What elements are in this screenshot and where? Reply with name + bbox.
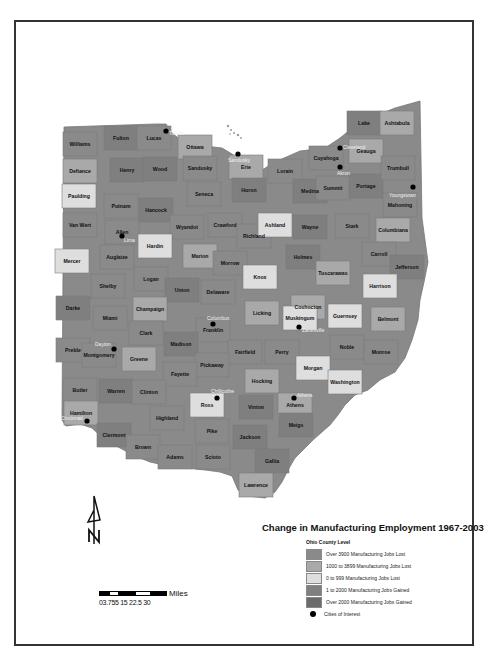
county-label: Medina [301, 188, 319, 194]
county-label: Licking [253, 310, 271, 316]
city-label: Cleveland [343, 144, 365, 150]
legend-item: 1000 to 3899 Manufacturing Jobs Lost [306, 560, 472, 572]
city-dot-icon [410, 184, 415, 189]
legend-swatch [306, 549, 322, 560]
county-label: Henry [120, 167, 135, 173]
north-arrow-icon [86, 494, 106, 546]
county-label: Meigs [289, 422, 304, 428]
scale-bar: Miles 03.755 15 22.5 30 [99, 589, 188, 606]
city-label: Lima [124, 237, 135, 243]
county-label: Champaign [136, 306, 164, 312]
county-label: Jackson [240, 434, 261, 440]
county-label: Lucas [147, 135, 162, 141]
county-label: Marion [191, 253, 208, 259]
city-label: Athens [297, 392, 313, 398]
county-label: Mercer [63, 258, 80, 264]
city-dot-icon [111, 346, 116, 351]
county-label: Preble [65, 347, 81, 353]
county-label: Brown [135, 444, 151, 450]
county-label: Paulding [68, 193, 90, 199]
county-label: Ross [201, 402, 214, 408]
county-label: Defiance [69, 168, 91, 174]
county-label: Clark [140, 330, 153, 336]
county-label: Jefferson [395, 264, 418, 270]
county-label: Scioto [205, 454, 221, 460]
legend-swatch [306, 573, 322, 584]
county-label: Richland [243, 233, 265, 239]
county-label: Hardin [147, 243, 163, 249]
city-label: Columbus [207, 315, 230, 321]
county-label: Guernsey [333, 313, 357, 319]
city-dot-icon [310, 611, 316, 617]
county-label: Belmont [378, 316, 399, 322]
county-label: Hancock [145, 207, 167, 213]
city-dot-icon [214, 395, 219, 400]
scale-units: Miles [169, 589, 188, 598]
legend-swatch [306, 597, 322, 608]
county-label: Huron [241, 187, 256, 193]
county-label: Morgan [304, 365, 323, 371]
county-label: Warren [107, 388, 125, 394]
county-label: Clinton [140, 389, 158, 395]
county-label: Delaware [207, 289, 230, 295]
city-dot-icon [84, 418, 89, 423]
county-label: Madison [170, 341, 191, 347]
legend-swatch [306, 561, 322, 572]
city-dot-icon [235, 151, 240, 156]
legend-item: 0 to 999 Manufacturing Jobs Lost [306, 572, 472, 584]
county-label: Mahoning [388, 202, 413, 208]
county-label: Montgomery [83, 352, 114, 358]
county-label: Noble [340, 344, 355, 350]
county-label: Highland [156, 415, 178, 421]
county-label: Sandusky [188, 165, 213, 171]
city-dot-icon [337, 145, 342, 150]
county-label: Washington [330, 379, 360, 385]
county-label: Union [175, 287, 190, 293]
county-label: Stark [346, 223, 359, 229]
county-label: Tuscarawas [318, 270, 347, 276]
county-label: Miami [103, 315, 118, 321]
county-label: Putnam [111, 203, 130, 209]
city-dot-icon [210, 321, 215, 326]
county-label: Athens [286, 402, 304, 408]
city-label: Akron [337, 170, 350, 176]
legend-swatch [306, 585, 322, 596]
legend-label: Cities of Interest [324, 611, 360, 617]
lake-erie-islands [227, 125, 242, 139]
county-label: Van Wert [69, 222, 91, 228]
county-label: Knox [254, 274, 267, 280]
county-label: Williams [70, 141, 91, 147]
county-label: Pike [207, 428, 218, 434]
legend-label: 0 to 999 Manufacturing Jobs Lost [326, 575, 400, 581]
county-label: Wood [153, 166, 167, 172]
county-label: Crawford [214, 222, 237, 228]
county-label: Coshocton [294, 304, 321, 310]
county-label: Portage [356, 183, 375, 189]
county-label: Auglaize [106, 254, 127, 260]
county-label: Clermont [103, 432, 126, 438]
city-label: Chillicothe [211, 388, 234, 394]
legend-label: Over 2000 Manufacturing Jobs Gained [326, 599, 412, 605]
city-dot-icon [291, 395, 296, 400]
county-label: Pickaway [200, 362, 223, 368]
legend-item-cities: Cities of Interest [306, 608, 472, 620]
county-label: Hocking [252, 378, 272, 384]
county-label: Fulton [113, 135, 129, 141]
city-label: Youngstown [389, 192, 416, 198]
map-title: Change in Manufacturing Employment 1967-… [262, 522, 472, 533]
legend-label: 1 to 2000 Manufacturing Jobs Gained [326, 587, 409, 593]
legend-label: 1000 to 3899 Manufacturing Jobs Lost [326, 563, 411, 569]
county-label: Fairfield [235, 349, 255, 355]
county-label: Trumbull [387, 165, 409, 171]
county-label: Summit [323, 185, 342, 191]
city-dot-icon [163, 128, 168, 133]
county-label: Muskingum [286, 315, 315, 321]
county-label: Darke [66, 305, 81, 311]
scale-graphic: Miles [99, 589, 188, 598]
scale-tick-labels: 03.755 15 22.5 30 [99, 599, 188, 606]
county-label: Carroll [371, 251, 388, 257]
legend-item: Over 2000 Manufacturing Jobs Gained [306, 596, 472, 608]
city-label: Zanesville [302, 327, 325, 333]
legend-subtitle: Ohio County Level [306, 539, 472, 545]
county-label: Ashtabula [384, 120, 409, 126]
